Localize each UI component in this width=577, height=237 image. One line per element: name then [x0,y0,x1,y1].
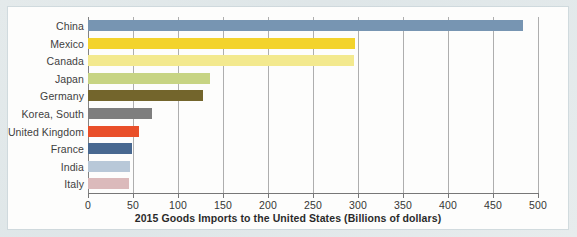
x-tick-label-150: 150 [214,199,232,211]
x-tick-250 [313,193,314,198]
x-tick-300 [358,193,359,198]
x-tick-label-450: 450 [484,199,502,211]
y-axis-label-japan: Japan [55,73,84,85]
bar-china [88,20,523,31]
x-tick-label-350: 350 [394,199,412,211]
bar-row [88,123,538,141]
x-tick-100 [178,193,179,198]
bar-row [88,158,538,176]
x-tick-label-500: 500 [529,199,547,211]
bar-korea-south [88,108,152,119]
bar-row [88,105,538,123]
bar-row [88,35,538,53]
x-tick-label-100: 100 [169,199,187,211]
bar-canada [88,55,354,66]
x-tick-label-200: 200 [259,199,277,211]
bar-row [88,70,538,88]
bar-united-kingdom [88,126,139,137]
x-tick-400 [448,193,449,198]
y-axis-label-korea-south: Korea, South [22,108,85,120]
gridline-500 [538,17,539,193]
y-axis-label-canada: Canada [47,55,84,67]
bar-france [88,143,132,154]
y-axis-label-germany: Germany [40,90,84,102]
x-tick-label-400: 400 [439,199,457,211]
x-tick-label-50: 50 [127,199,139,211]
bar-chart: 050100150200250300350400450500 ChinaMexi… [8,7,568,229]
bar-row [88,175,538,193]
x-tick-label-300: 300 [349,199,367,211]
x-tick-label-250: 250 [304,199,322,211]
bar-italy [88,178,129,189]
y-axis-label-france: France [51,143,84,155]
bar-japan [88,73,210,84]
x-tick-450 [493,193,494,198]
bar-mexico [88,38,355,49]
bar-row [88,52,538,70]
x-tick-500 [538,193,539,198]
bar-row [88,140,538,158]
chart-card: 050100150200250300350400450500 ChinaMexi… [8,7,568,229]
x-tick-150 [223,193,224,198]
y-axis-label-india: India [61,161,84,173]
x-tick-200 [268,193,269,198]
y-axis-label-mexico: Mexico [50,38,84,50]
y-axis-label-united-kingdom: United Kingdom [8,126,84,138]
x-tick-0 [88,193,89,198]
bar-row [88,17,538,35]
x-tick-350 [403,193,404,198]
x-tick-label-0: 0 [85,199,91,211]
bar-india [88,161,130,172]
page-background: 050100150200250300350400450500 ChinaMexi… [0,0,577,237]
y-axis-label-italy: Italy [64,178,84,190]
bar-germany [88,90,203,101]
y-axis-label-china: China [56,20,84,32]
x-axis-title: 2015 Goods Imports to the United States … [8,212,568,224]
x-tick-50 [133,193,134,198]
bar-row [88,87,538,105]
